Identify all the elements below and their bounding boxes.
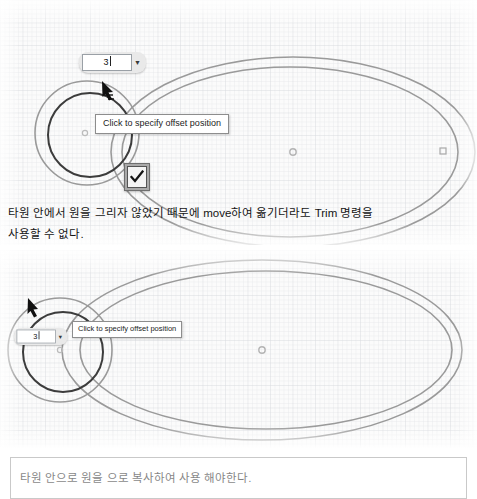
crosshair-cursor-bottom	[28, 298, 39, 318]
center-point-marker-ellipse-bottom	[259, 347, 265, 353]
note-box: 타원 안으로 원을 으로 복사하여 사용 해야한다.	[10, 457, 467, 499]
caption-line-2: 사용할 수 없다.	[8, 224, 470, 245]
offset-distance-value: 3	[103, 57, 108, 67]
center-point-marker-circle	[82, 130, 87, 135]
offset-distance-spinner-bottom[interactable]: 3 ▼	[14, 328, 67, 345]
quadrant-grip-marker[interactable]	[440, 148, 446, 154]
text-caret-bottom	[38, 331, 39, 339]
offset-distance-input[interactable]: 3	[82, 54, 132, 71]
offset-distance-value-bottom: 3	[33, 332, 37, 340]
note-box-text: 타원 안으로 원을 으로 복사하여 사용 해야한다.	[20, 469, 251, 485]
circle-source	[48, 93, 132, 177]
confirm-check-button[interactable]	[124, 163, 150, 191]
panel-divider	[0, 444, 477, 453]
cad-canvas-bottom[interactable]	[0, 250, 477, 448]
offset-distance-input-bottom[interactable]: 3	[16, 330, 55, 344]
confirm-check-inner	[127, 166, 147, 188]
caption-line-1: 타원 안에서 원을 그리자 않았기 때문에 move하여 옮기더라도 Trim …	[8, 207, 373, 219]
cad-geometry-bottom	[0, 250, 477, 448]
ellipse-inner-bottom	[80, 271, 452, 429]
check-icon	[130, 170, 144, 184]
ellipse-outer-bottom	[62, 260, 462, 440]
text-caret	[110, 56, 111, 66]
crosshair-cursor	[102, 81, 114, 101]
offset-tooltip-bottom: Click to specify offset position	[72, 321, 182, 338]
chevron-down-icon[interactable]: ▼	[132, 55, 143, 70]
center-point-marker-ellipse	[290, 149, 296, 155]
chevron-down-icon-bottom[interactable]: ▼	[56, 330, 65, 342]
caption-text: 타원 안에서 원을 그리자 않았기 때문에 move하여 옮기더라도 Trim …	[8, 203, 470, 246]
offset-distance-spinner[interactable]: 3 ▼	[79, 52, 146, 73]
offset-tooltip: Click to specify offset position	[95, 114, 229, 134]
